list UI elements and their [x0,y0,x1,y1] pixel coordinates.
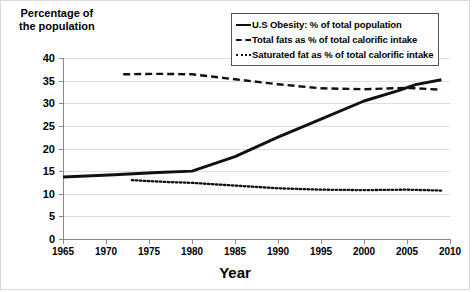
x-axis-line [63,239,451,240]
series-lines [63,58,450,239]
legend-label-saturated-fat: Saturated fat as % of total calorific in… [252,49,433,60]
legend-item-total-fats: Total fats as % of total calorific intak… [236,32,433,47]
y-axis-title-line1: Percentage of [19,7,95,20]
series-line-0 [63,80,441,177]
x-tick-label: 1990 [258,246,298,257]
x-tick-mark [364,240,365,244]
y-axis-title: Percentage of the population [19,7,95,33]
solid-line-key-icon [236,20,251,30]
y-tick-label: 5 [21,211,55,222]
x-tick-label: 1980 [172,246,212,257]
x-tick-label: 1970 [86,246,126,257]
x-axis-title: Year [1,264,469,281]
y-tick-label: 15 [21,166,55,177]
y-axis-title-line2: the population [19,20,95,33]
legend-label-total-fats: Total fats as % of total calorific intak… [252,34,417,45]
y-tick-label: 40 [21,53,55,64]
x-tick-label: 1995 [301,246,341,257]
chart-legend: U.S Obesity: % of total population Total… [231,13,439,66]
x-tick-mark [407,240,408,244]
x-tick-mark [106,240,107,244]
y-tick-label: 20 [21,144,55,155]
series-line-1 [123,74,441,90]
series-line-2 [132,180,442,190]
x-tick-mark [450,240,451,244]
legend-item-obesity: U.S Obesity: % of total population [236,17,433,32]
y-tick-label: 30 [21,98,55,109]
y-tick-label: 10 [21,189,55,200]
x-tick-mark [321,240,322,244]
dotted-line-key-icon [236,50,251,60]
y-tick-label: 0 [21,234,55,245]
x-tick-label: 2005 [387,246,427,257]
x-tick-mark [192,240,193,244]
legend-label-obesity: U.S Obesity: % of total population [252,19,402,30]
x-tick-label: 2010 [430,246,470,257]
x-tick-mark [63,240,64,244]
x-tick-label: 1985 [215,246,255,257]
x-tick-label: 1965 [43,246,83,257]
legend-item-saturated-fat: Saturated fat as % of total calorific in… [236,47,433,62]
x-tick-mark [235,240,236,244]
x-tick-mark [149,240,150,244]
plot-area [63,58,450,239]
y-tick-label: 35 [21,76,55,87]
x-tick-mark [278,240,279,244]
y-tick-label: 25 [21,121,55,132]
x-tick-label: 1975 [129,246,169,257]
x-tick-label: 2000 [344,246,384,257]
line-chart-figure: Percentage of the population 05101520253… [0,0,470,290]
dashed-line-key-icon [236,35,251,45]
